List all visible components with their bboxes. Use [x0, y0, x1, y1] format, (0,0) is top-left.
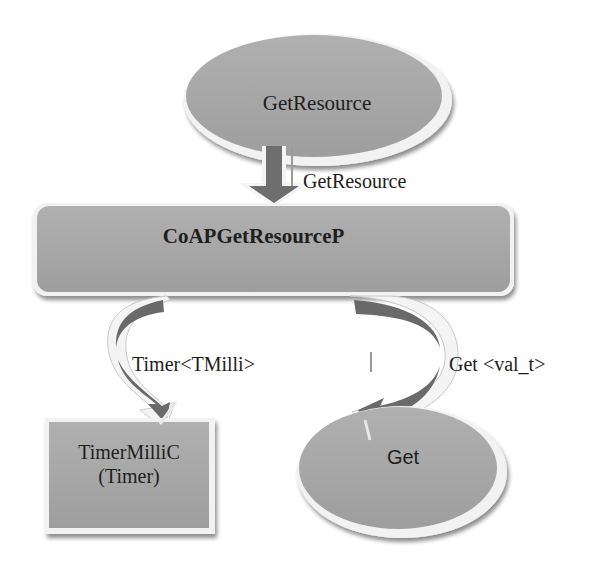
- node-timermillic-label: TimerMilliC (Timer): [50, 440, 208, 488]
- edge-timer-label: Timer<TMilli>: [132, 353, 255, 376]
- node-get-ellipse: [297, 406, 507, 538]
- node-get-label: Get: [298, 446, 508, 469]
- node-getresource-label: GetResource: [182, 91, 452, 116]
- node-timermillic-line1: TimerMilliC: [50, 440, 208, 464]
- node-coapgetresourcep-box: [33, 203, 514, 296]
- node-timermillic-line2: (Timer): [50, 464, 208, 488]
- edge-get-label: Get <val_t>: [449, 353, 545, 376]
- diagram-canvas: GetResource GetResource CoAPGetResourceP…: [0, 0, 602, 573]
- edge-getresource-label: GetResource: [303, 170, 406, 193]
- node-coapgetresourcep-label: CoAPGetResourceP: [35, 224, 512, 249]
